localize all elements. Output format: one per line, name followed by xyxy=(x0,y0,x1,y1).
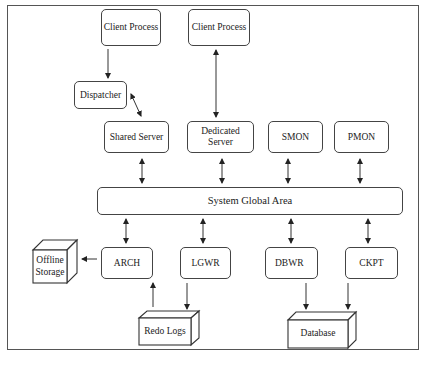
dedicated-server-label: Dedicated Server xyxy=(188,126,253,148)
ckpt-label: CKPT xyxy=(359,258,383,269)
offline-storage-label-line2: Storage xyxy=(35,267,64,278)
arch-label: ARCH xyxy=(114,258,140,269)
sga-label: System Global Area xyxy=(208,195,293,207)
offline-storage-node: Offline Storage xyxy=(33,250,67,283)
dispatcher-node: Dispatcher xyxy=(74,81,127,109)
connector-layer xyxy=(0,0,428,365)
arch-node: ARCH xyxy=(101,247,153,279)
dbwr-node: DBWR xyxy=(265,247,318,279)
client-process-node-1: Client Process xyxy=(101,9,161,46)
smon-label: SMON xyxy=(282,132,309,143)
shared-server-node: Shared Server xyxy=(104,121,169,153)
offline-storage-label-line1: Offline xyxy=(36,255,63,266)
dbwr-label: DBWR xyxy=(275,258,304,269)
client-process-2-label: Client Process xyxy=(192,22,247,33)
lgwr-node: LGWR xyxy=(180,247,231,279)
pmon-node: PMON xyxy=(334,121,389,153)
client-process-1-label: Client Process xyxy=(104,22,159,33)
ckpt-node: CKPT xyxy=(345,247,398,279)
pmon-label: PMON xyxy=(348,132,375,143)
dedicated-server-node: Dedicated Server xyxy=(187,121,254,153)
client-process-node-2: Client Process xyxy=(188,9,250,46)
redo-logs-label: Redo Logs xyxy=(144,326,185,337)
smon-node: SMON xyxy=(268,121,323,153)
database-label: Database xyxy=(301,328,336,339)
arrow-dispatcher-shared-server xyxy=(131,94,141,116)
lgwr-label: LGWR xyxy=(192,258,220,269)
database-node: Database xyxy=(288,320,348,348)
dispatcher-label: Dispatcher xyxy=(80,90,121,101)
system-global-area-node: System Global Area xyxy=(97,187,403,215)
redo-logs-node: Redo Logs xyxy=(139,318,191,345)
shared-server-label: Shared Server xyxy=(110,132,164,143)
